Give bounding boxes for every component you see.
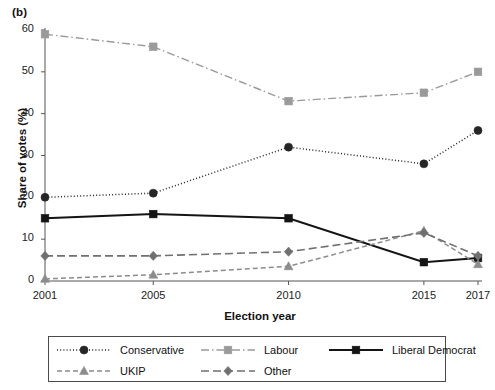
legend-swatch-circle-icon <box>55 342 113 358</box>
data-point-marker-square <box>149 43 157 51</box>
figure-panel-b: (b) Share of votes (%) Election year 010… <box>0 0 495 390</box>
legend-item-labour[interactable]: Labour <box>199 339 298 360</box>
series-line <box>45 214 478 262</box>
series-line <box>45 34 478 101</box>
series-line <box>45 233 478 256</box>
data-point-marker-circle <box>80 346 88 354</box>
data-point-marker-square <box>41 214 49 222</box>
data-point-marker-diamond <box>41 251 49 260</box>
legend-label: Labour <box>257 344 298 356</box>
series-labour <box>41 30 482 105</box>
data-point-marker-diamond <box>284 247 292 256</box>
data-point-marker-square <box>41 30 49 38</box>
legend-item-conservative[interactable]: Conservative <box>55 339 184 360</box>
data-point-marker-circle <box>420 160 428 168</box>
legend-swatch-diamond-icon <box>199 363 257 379</box>
legend-label: Liberal Democrat <box>385 344 476 356</box>
legend-swatch-square-icon <box>199 342 257 358</box>
legend-swatch-triangle-icon <box>55 363 113 379</box>
legend-item-liberal-democrat[interactable]: Liberal Democrat <box>327 339 476 360</box>
data-point-marker-square <box>420 258 428 266</box>
legend-label: Conservative <box>113 344 184 356</box>
data-point-marker-square <box>285 214 293 222</box>
data-point-marker-diamond <box>420 228 428 237</box>
series-line <box>45 130 478 197</box>
data-point-marker-circle <box>149 189 157 197</box>
data-point-marker-triangle <box>284 262 293 270</box>
data-point-marker-square <box>420 89 428 97</box>
series-other <box>41 228 482 260</box>
legend-row: UKIPOther <box>49 360 445 381</box>
data-point-marker-circle <box>285 143 293 151</box>
series-line <box>45 231 478 279</box>
data-point-marker-triangle <box>80 366 89 374</box>
data-point-marker-square <box>352 346 360 354</box>
legend-row: ConservativeLabourLiberal Democrat <box>49 339 445 360</box>
chart-legend: ConservativeLabourLiberal DemocratUKIPOt… <box>48 336 446 382</box>
legend-item-ukip[interactable]: UKIP <box>55 360 146 381</box>
data-point-marker-diamond <box>149 251 157 260</box>
series-conservative <box>41 126 482 201</box>
plot-area <box>0 0 495 390</box>
data-point-marker-circle <box>41 193 49 201</box>
data-point-marker-square <box>474 68 482 76</box>
legend-label: Other <box>257 365 292 377</box>
legend-swatch-square-icon <box>327 342 385 358</box>
legend-item-other[interactable]: Other <box>199 360 292 381</box>
data-point-marker-diamond <box>224 366 232 375</box>
series-liberal-democrat <box>41 210 482 266</box>
data-point-marker-square <box>149 210 157 218</box>
data-point-marker-square <box>285 97 293 105</box>
data-point-marker-square <box>224 346 232 354</box>
legend-label: UKIP <box>113 365 146 377</box>
data-point-marker-circle <box>474 126 482 134</box>
